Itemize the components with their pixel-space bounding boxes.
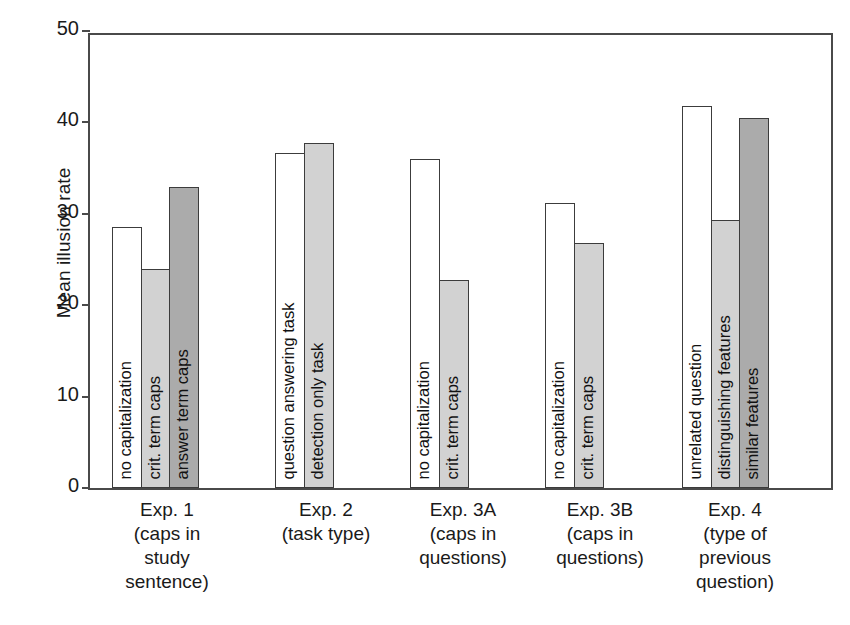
- x-caption-line: Exp. 2: [251, 498, 401, 522]
- y-tick-label: 30: [57, 201, 79, 221]
- y-tick-mark: [82, 487, 90, 489]
- bar-chart-figure: Mean illusion rate 01020304050 no capita…: [0, 0, 850, 625]
- y-tick-mark: [82, 304, 90, 306]
- bar-label: no capitalization: [415, 361, 432, 479]
- x-group-caption-3: Exp. 3A(caps inquestions): [388, 498, 538, 570]
- x-caption-line: Exp. 3B: [525, 498, 675, 522]
- bar-label: crit. term caps: [145, 375, 162, 479]
- x-caption-line: Exp. 3A: [388, 498, 538, 522]
- y-tick-label: 20: [57, 292, 79, 312]
- x-caption-line: (caps in: [388, 522, 538, 546]
- bar-label: no capitalization: [117, 361, 134, 479]
- y-tick-label: 0: [68, 475, 79, 495]
- x-group-caption-5: Exp. 4(type ofpreviousquestion): [660, 498, 810, 594]
- bar-label: detection only task: [308, 342, 325, 479]
- x-caption-line: questions): [388, 546, 538, 570]
- bar-1-3[interactable]: answer term caps: [169, 187, 199, 488]
- bar-4-1[interactable]: no capitalization: [545, 203, 575, 488]
- bar-label: crit. term caps: [443, 375, 460, 479]
- bar-label: no capitalization: [550, 361, 567, 479]
- y-axis-title: Mean illusion rate: [53, 93, 75, 393]
- x-axis-group-captions: Exp. 1(caps instudysentence)Exp. 2(task …: [88, 498, 833, 623]
- y-tick-mark: [82, 121, 90, 123]
- bar-label: similar features: [744, 367, 761, 479]
- bar-label: crit. term caps: [578, 375, 595, 479]
- bar-group-4: no capitalizationcrit. term caps: [545, 35, 602, 488]
- y-tick-label: 50: [57, 18, 79, 38]
- bar-1-1[interactable]: no capitalization: [112, 227, 142, 488]
- bar-group-2: question answering taskdetection only ta…: [275, 35, 332, 488]
- bar-2-2[interactable]: detection only task: [304, 143, 334, 488]
- x-group-caption-2: Exp. 2(task type): [251, 498, 401, 546]
- bar-4-2[interactable]: crit. term caps: [574, 243, 604, 488]
- bar-label: answer term caps: [174, 349, 191, 479]
- bar-group-5: unrelated questiondistinguishing feature…: [682, 35, 768, 488]
- x-caption-line: study: [92, 546, 242, 570]
- bar-2-1[interactable]: question answering task: [275, 153, 305, 488]
- bar-3-1[interactable]: no capitalization: [410, 159, 440, 488]
- bar-5-2[interactable]: distinguishing features: [711, 220, 741, 488]
- plot-area: 01020304050 no capitalizationcrit. term …: [88, 33, 833, 490]
- y-tick-mark: [82, 30, 90, 32]
- x-caption-line: previous: [660, 546, 810, 570]
- x-group-caption-1: Exp. 1(caps instudysentence): [92, 498, 242, 594]
- y-tick-mark: [82, 396, 90, 398]
- bar-5-3[interactable]: similar features: [739, 118, 769, 488]
- x-caption-line: Exp. 1: [92, 498, 242, 522]
- x-caption-line: (type of: [660, 522, 810, 546]
- y-tick-label: 10: [57, 384, 79, 404]
- x-caption-line: (task type): [251, 522, 401, 546]
- x-caption-line: sentence): [92, 570, 242, 594]
- x-caption-line: (caps in: [525, 522, 675, 546]
- x-caption-line: question): [660, 570, 810, 594]
- bars-container: no capitalizationcrit. term capsanswer t…: [90, 35, 831, 488]
- x-group-caption-4: Exp. 3B(caps inquestions): [525, 498, 675, 570]
- bar-group-3: no capitalizationcrit. term caps: [410, 35, 467, 488]
- bar-3-2[interactable]: crit. term caps: [439, 280, 469, 488]
- x-caption-line: questions): [525, 546, 675, 570]
- bar-5-1[interactable]: unrelated question: [682, 106, 712, 488]
- bar-label: distinguishing features: [715, 315, 732, 479]
- bar-1-2[interactable]: crit. term caps: [141, 269, 171, 488]
- bar-label: unrelated question: [687, 343, 704, 479]
- y-tick-mark: [82, 213, 90, 215]
- bar-label: question answering task: [280, 302, 297, 479]
- x-caption-line: (caps in: [92, 522, 242, 546]
- bar-group-1: no capitalizationcrit. term capsanswer t…: [112, 35, 198, 488]
- y-tick-label: 40: [57, 109, 79, 129]
- x-caption-line: Exp. 4: [660, 498, 810, 522]
